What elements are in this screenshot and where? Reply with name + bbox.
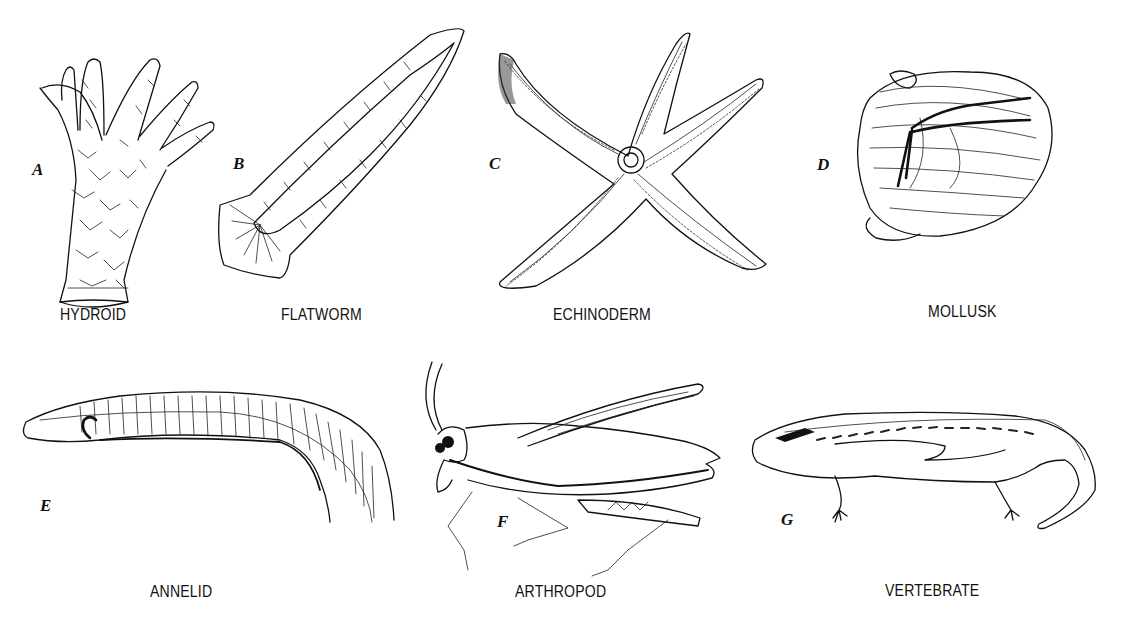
hydroid-illustration (20, 40, 220, 340)
caption-arthropod: ARTHROPOD (515, 583, 606, 601)
echinoderm-illustration (486, 24, 786, 304)
caption-flatworm: FLATWORM (281, 306, 362, 324)
caption-vertebrate: VERTEBRATE (885, 582, 979, 600)
caption-hydroid: HYDROID (60, 306, 126, 324)
caption-annelid: ANNELID (150, 583, 212, 601)
annelid-illustration (20, 390, 420, 540)
panel-letter-e: E (40, 496, 51, 516)
flatworm-illustration (210, 25, 470, 325)
arthropod-illustration (408, 360, 738, 620)
caption-mollusk: MOLLUSK (928, 303, 997, 321)
panel-letter-b: B (233, 154, 244, 174)
caption-echinoderm: ECHINODERM (553, 306, 651, 324)
panel-letter-c: C (489, 154, 500, 174)
panel-letter-a: A (32, 160, 43, 180)
panel-letter-d: D (817, 155, 829, 175)
panel-letter-f: F (497, 512, 508, 532)
mollusk-illustration (840, 68, 1080, 248)
panel-letter-g: G (781, 510, 793, 530)
vertebrate-illustration (745, 410, 1105, 550)
